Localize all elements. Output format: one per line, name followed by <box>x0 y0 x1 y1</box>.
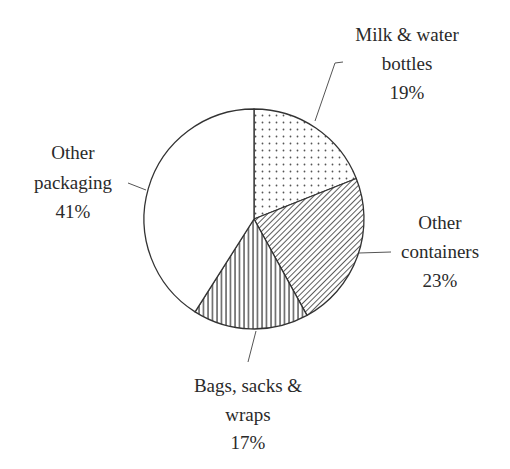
label-other-packaging-value: 41% <box>56 201 91 222</box>
label-bags-line1: Bags, sacks & <box>194 375 302 396</box>
leader-line-milk <box>315 62 343 121</box>
leader-line-other-packaging <box>128 183 146 190</box>
label-milk: Milk & water bottles 19% <box>355 24 459 103</box>
label-containers-line1: Other <box>418 212 462 233</box>
label-milk-line2: bottles <box>382 53 433 74</box>
leader-line-bags <box>248 331 256 362</box>
label-milk-line1: Milk & water <box>355 24 459 45</box>
label-containers-value: 23% <box>423 270 458 291</box>
label-containers-line2: containers <box>401 241 479 262</box>
leader-line-containers <box>359 252 391 253</box>
pie-chart: Milk & water bottles 19% Other container… <box>0 0 510 469</box>
label-bags: Bags, sacks & wraps 17% <box>194 375 302 453</box>
label-containers: Other containers 23% <box>401 212 479 291</box>
label-other-packaging-line2: packaging <box>34 172 113 193</box>
label-other-packaging-line1: Other <box>51 142 95 163</box>
pie-slices <box>144 109 364 329</box>
label-other-packaging: Other packaging 41% <box>34 142 113 222</box>
label-bags-line2: wraps <box>225 404 270 425</box>
label-bags-value: 17% <box>231 432 266 453</box>
label-milk-value: 19% <box>390 82 425 103</box>
